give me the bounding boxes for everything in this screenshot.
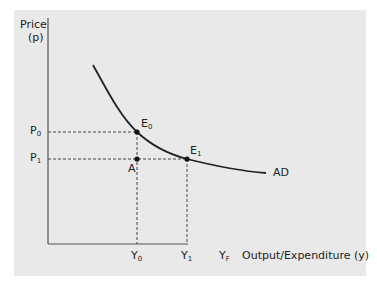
tick-p0-base: P (30, 124, 37, 137)
y-axis-label-price: Price (20, 19, 47, 30)
tick-p1-base: P (30, 151, 37, 164)
tick-yf-sub: F (226, 255, 230, 263)
label-a: A (128, 163, 136, 174)
tick-y1-base: Y (181, 249, 188, 262)
tick-y0: Y0 (131, 250, 142, 263)
tick-p0-sub: 0 (37, 130, 41, 138)
y-axis-label-p: (p) (28, 32, 44, 43)
point-a (134, 156, 139, 161)
point-e1 (184, 156, 189, 161)
label-e0-sub: 0 (148, 123, 152, 131)
tick-p1-sub: 1 (37, 157, 41, 165)
point-e0 (134, 129, 139, 134)
label-e0: E0 (141, 118, 152, 131)
tick-p1: P1 (30, 152, 41, 165)
label-e1: E1 (190, 145, 201, 158)
label-e1-sub: 1 (197, 150, 201, 158)
tick-p0: P0 (30, 125, 41, 138)
ad-chart (0, 0, 377, 289)
tick-y0-base: Y (131, 249, 138, 262)
ad-curve (93, 65, 266, 173)
label-e0-base: E (141, 117, 148, 130)
tick-yf-base: Y (219, 249, 226, 262)
x-axis-label: Output/Expenditure (y) (242, 250, 369, 261)
tick-y1: Y1 (181, 250, 192, 263)
tick-yf: YF (219, 250, 230, 263)
tick-y0-sub: 0 (138, 255, 142, 263)
label-e1-base: E (190, 144, 197, 157)
tick-y1-sub: 1 (188, 255, 192, 263)
label-ad: AD (273, 167, 289, 178)
